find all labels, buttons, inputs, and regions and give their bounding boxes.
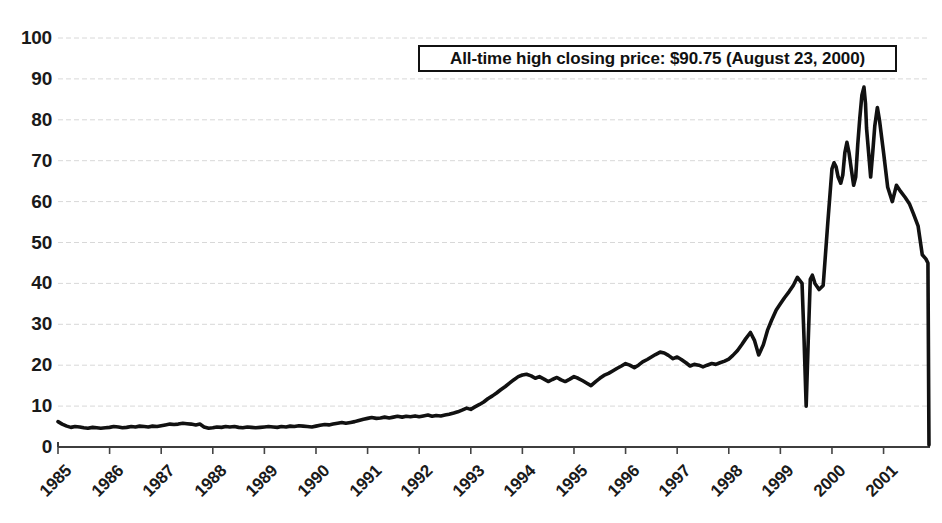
y-axis-tick-label: 40	[0, 273, 52, 292]
y-axis-tick-label: 90	[0, 69, 52, 88]
y-axis-tick-label: 60	[0, 192, 52, 211]
y-axis-tick-label: 50	[0, 233, 52, 252]
all-time-high-annotation-text: All-time high closing price: $90.75 (Aug…	[450, 49, 865, 69]
y-axis-tick-label: 30	[0, 314, 52, 333]
gridlines	[58, 38, 930, 406]
y-axis-tick-label: 10	[0, 396, 52, 415]
y-axis-tick-label: 0	[0, 437, 52, 456]
y-axis-tick-label: 80	[0, 110, 52, 129]
y-axis-tick-label: 100	[0, 28, 52, 47]
stock-price-chart: 0102030405060708090100 19851986198719881…	[0, 0, 942, 523]
y-axis-tick-label: 20	[0, 355, 52, 374]
price-line	[58, 87, 929, 445]
chart-plot-area	[0, 0, 942, 523]
y-axis-tick-label: 70	[0, 151, 52, 170]
all-time-high-annotation: All-time high closing price: $90.75 (Aug…	[418, 45, 897, 72]
x-axis-ticks	[58, 447, 884, 454]
